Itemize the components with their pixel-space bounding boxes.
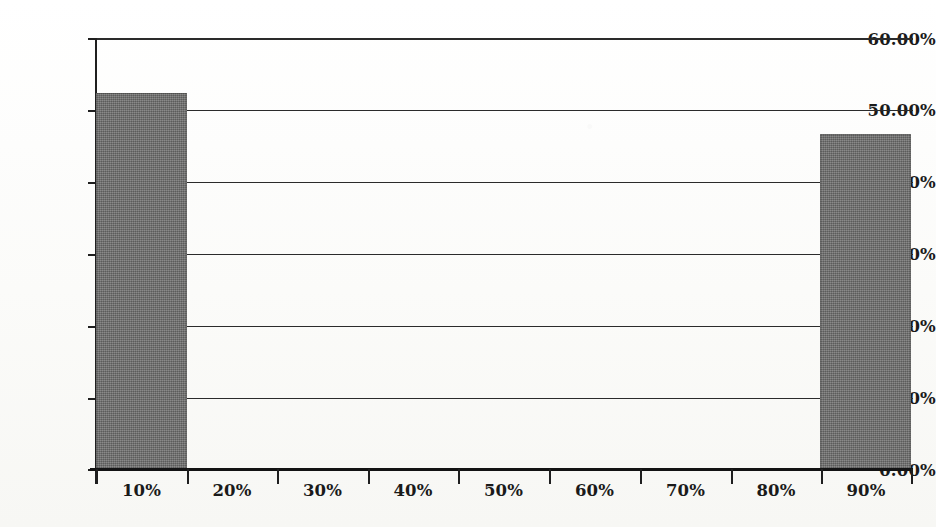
gridline-50 xyxy=(96,110,913,111)
x-tick-label-90: 90% xyxy=(821,481,911,500)
x-tick-label-70: 70% xyxy=(640,481,731,500)
gridline-20 xyxy=(96,326,913,327)
bar-90[interactable] xyxy=(820,134,911,469)
x-tick-mark-9 xyxy=(911,469,913,484)
x-axis-baseline xyxy=(90,468,913,471)
x-tick-label-60: 60% xyxy=(549,481,640,500)
x-tick-label-80: 80% xyxy=(731,481,821,500)
x-tick-label-50: 50% xyxy=(458,481,549,500)
gridline-40 xyxy=(96,182,913,183)
x-tick-label-20: 20% xyxy=(187,481,277,500)
bar-10[interactable] xyxy=(96,93,187,469)
x-tick-label-10: 10% xyxy=(96,481,187,500)
gridline-30 xyxy=(96,254,913,255)
gridline-60 xyxy=(96,38,913,40)
bar-chart: 60.00% 50.00% 40.00% 30.00% 20.00% 10.00… xyxy=(0,0,936,527)
chart-page: 60.00% 50.00% 40.00% 30.00% 20.00% 10.00… xyxy=(0,0,936,527)
x-tick-label-40: 40% xyxy=(368,481,458,500)
x-tick-label-30: 30% xyxy=(277,481,368,500)
gridline-10 xyxy=(96,398,913,399)
